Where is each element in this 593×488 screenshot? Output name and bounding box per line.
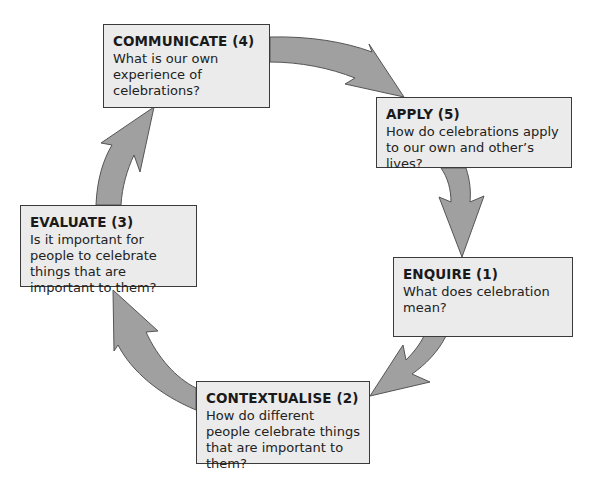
stage-question: How do different people celebrate things… (206, 408, 360, 472)
arrow-enquire-to-contextualise (370, 336, 446, 396)
arrow-evaluate-to-communicate (96, 107, 154, 205)
stage-question: What is our own experience of celebratio… (113, 51, 243, 99)
stage-apply: APPLY (5) How do celebrations apply to o… (376, 97, 572, 168)
stage-title: COMMUNICATE (4) (113, 33, 260, 50)
stage-title: CONTEXTUALISE (2) (206, 390, 360, 407)
stage-title: APPLY (5) (386, 106, 562, 123)
arrow-communicate-to-apply (270, 37, 404, 97)
stage-question: Is it important for people to celebrate … (30, 232, 187, 296)
stage-title: EVALUATE (3) (30, 214, 187, 231)
stage-enquire: ENQUIRE (1) What does celebration mean? (393, 257, 573, 337)
arrow-apply-to-enquire (439, 168, 484, 257)
stage-question: How do celebrations apply to our own and… (386, 124, 562, 172)
arrow-contextualise-to-evaluate (113, 290, 196, 410)
stage-title: ENQUIRE (1) (403, 266, 563, 283)
stage-evaluate: EVALUATE (3) Is it important for people … (20, 205, 197, 287)
stage-question: What does celebration mean? (403, 284, 553, 316)
stage-communicate: COMMUNICATE (4) What is our own experien… (103, 24, 270, 108)
stage-contextualise: CONTEXTUALISE (2) How do different peopl… (196, 381, 370, 464)
